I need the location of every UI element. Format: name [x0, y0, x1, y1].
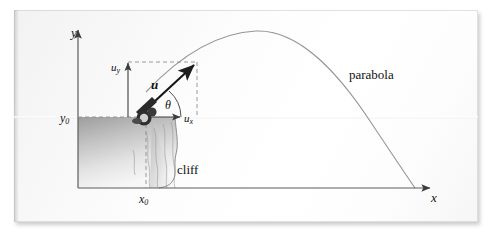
uy-subscript: y	[117, 66, 121, 75]
theta-label: θ	[165, 99, 171, 111]
x-axis-label: x	[431, 191, 437, 204]
x-origin-subscript: 0	[144, 198, 148, 207]
y-origin-label: y0	[60, 112, 69, 126]
cliff-label: cliff	[177, 163, 198, 176]
uy-label: uy	[111, 62, 120, 75]
projectile-motion-figure: y x y0 x0 uy ux u θ parabola cliff	[0, 0, 499, 236]
cliff-shape	[78, 117, 179, 188]
ux-subscript: x	[190, 117, 194, 126]
parabola-label: parabola	[349, 68, 394, 81]
y-axis-label: y	[71, 26, 77, 39]
velocity-vector-label: u	[151, 78, 158, 91]
x-origin-label: x0	[139, 193, 148, 207]
ux-label: ux	[184, 113, 193, 126]
y-origin-subscript: 0	[65, 117, 69, 126]
